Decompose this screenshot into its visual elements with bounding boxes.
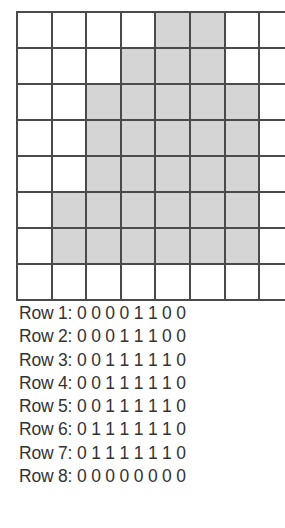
row-label: Row 3: [19,350,72,370]
grid-cell-empty [16,227,51,263]
row-values: 0 0 1 1 1 1 1 0 [77,396,186,416]
grid-row-8 [16,263,285,299]
grid-cell-empty [51,155,86,191]
grid-cell-filled [154,119,189,155]
grid-cell-filled [189,227,224,263]
grid-cell-filled [189,191,224,227]
grid-cell-filled [189,11,224,47]
grid-row-6 [16,191,285,227]
grid-cell-empty [85,11,120,47]
grid-cell-empty [258,83,285,119]
grid-cell-empty [154,263,189,299]
grid-cell-empty [51,263,86,299]
grid-row-3 [16,83,285,119]
grid-cell-empty [16,83,51,119]
row-encoding-8: Row 8: 0 0 0 0 0 0 0 0 [19,465,186,488]
grid-cell-filled [154,155,189,191]
grid-cell-empty [16,11,51,47]
row-encoding-list: Row 1: 0 0 0 0 1 1 0 0 Row 2: 0 0 0 1 1 … [19,302,186,488]
grid-cell-empty [16,47,51,83]
grid-cell-empty [85,263,120,299]
pixel-grid [16,11,285,299]
grid-cell-filled [85,227,120,263]
grid-row-2 [16,47,285,83]
grid-cell-empty [224,263,259,299]
grid-cell-empty [258,155,285,191]
grid-cell-empty [258,119,285,155]
grid-cell-filled [120,155,155,191]
grid-cell-empty [85,47,120,83]
row-values: 0 1 1 1 1 1 1 0 [77,419,186,439]
grid-cell-empty [258,191,285,227]
grid-cell-filled [224,155,259,191]
grid-cell-filled [154,191,189,227]
row-encoding-4: Row 4: 0 0 1 1 1 1 1 0 [19,372,186,395]
row-values: 0 0 0 0 0 0 0 0 [77,466,186,486]
grid-cell-filled [224,191,259,227]
grid-cell-empty [51,83,86,119]
grid-cell-filled [154,47,189,83]
row-encoding-6: Row 6: 0 1 1 1 1 1 1 0 [19,418,186,441]
grid-cell-filled [189,83,224,119]
grid-cell-empty [224,11,259,47]
grid-cell-filled [85,83,120,119]
grid-cell-empty [16,155,51,191]
row-values: 0 0 0 0 1 1 0 0 [77,303,186,323]
grid-cell-filled [85,119,120,155]
row-encoding-3: Row 3: 0 0 1 1 1 1 1 0 [19,349,186,372]
grid-cell-filled [224,119,259,155]
row-values: 0 0 1 1 1 1 1 0 [77,373,186,393]
grid-cell-empty [258,227,285,263]
grid-cell-empty [51,119,86,155]
grid-cell-filled [85,191,120,227]
row-encoding-7: Row 7: 0 1 1 1 1 1 1 0 [19,442,186,465]
grid-cell-filled [51,191,86,227]
grid-cell-empty [189,263,224,299]
row-encoding-1: Row 1: 0 0 0 0 1 1 0 0 [19,302,186,325]
grid-cell-empty [120,263,155,299]
grid-row-5 [16,155,285,191]
grid-cell-filled [120,191,155,227]
grid-cell-filled [120,227,155,263]
grid-cell-empty [258,11,285,47]
grid-cell-empty [258,47,285,83]
grid-cell-empty [16,191,51,227]
grid-cell-empty [51,47,86,83]
row-label: Row 8: [19,466,72,486]
grid-cell-filled [154,227,189,263]
grid-cell-empty [16,263,51,299]
grid-cell-empty [51,11,86,47]
grid-cell-filled [154,83,189,119]
row-label: Row 1: [19,303,72,323]
grid-cell-filled [224,227,259,263]
row-values: 0 1 1 1 1 1 1 0 [77,443,186,463]
grid-cell-filled [189,155,224,191]
row-values: 0 0 0 1 1 1 0 0 [77,326,186,346]
grid-row-7 [16,227,285,263]
grid-row-1 [16,11,285,47]
grid-cell-empty [16,119,51,155]
grid-cell-filled [120,47,155,83]
row-label: Row 6: [19,419,72,439]
row-encoding-2: Row 2: 0 0 0 1 1 1 0 0 [19,325,186,348]
grid-cell-filled [120,83,155,119]
grid-cell-filled [189,119,224,155]
grid-cell-filled [189,47,224,83]
grid-cell-empty [258,263,285,299]
row-label: Row 4: [19,373,72,393]
grid-cell-filled [85,155,120,191]
grid-cell-filled [154,11,189,47]
row-label: Row 2: [19,326,72,346]
row-encoding-5: Row 5: 0 0 1 1 1 1 1 0 [19,395,186,418]
grid-cell-empty [224,47,259,83]
grid-row-4 [16,119,285,155]
row-values: 0 0 1 1 1 1 1 0 [77,350,186,370]
row-label: Row 7: [19,443,72,463]
row-label: Row 5: [19,396,72,416]
grid-cell-empty [120,11,155,47]
grid-bottom-border [16,299,285,301]
grid-cell-filled [51,227,86,263]
grid-cell-filled [224,83,259,119]
grid-cell-filled [120,119,155,155]
